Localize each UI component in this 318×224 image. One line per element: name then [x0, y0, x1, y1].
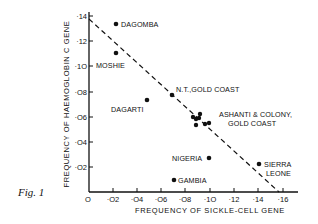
label-nt-gold-coast: N.T.,GOLD COAST [176, 85, 240, 94]
x-tick-label: ·14 [253, 195, 264, 204]
label-moshie: MOSHIE [96, 61, 125, 70]
point-ashanti [207, 121, 211, 125]
label-sierra-line1: SIERRA [264, 160, 291, 169]
y-tick-label: ·O6 [74, 113, 87, 122]
point-gambia [172, 178, 177, 183]
x-tick-label: ·O8 [179, 195, 192, 204]
y-tick-labels: ·O2 ·O4 ·O6 ·O8 ·1O ·12 ·14 [74, 12, 87, 172]
y-tick-label: ·1O [74, 62, 87, 71]
x-tick-label: O [85, 195, 91, 204]
y-axis-title: FREQUENCY OF HAEMOGLOBIN C GENE [62, 21, 71, 188]
point-sierra-leone [257, 162, 262, 167]
label-ashanti-line1: ASHANTI & COLONY, [219, 110, 292, 119]
point-dagomba [114, 22, 119, 27]
x-tick-label: ·12 [229, 195, 240, 204]
label-sierra-line2: LEONE [266, 169, 291, 178]
label-dagarti: DAGARTI [111, 105, 144, 114]
label-ashanti-line2: GOLD COAST [228, 119, 277, 128]
x-tick-label: ·1O [204, 195, 217, 204]
label-dagomba: DAGOMBA [121, 20, 159, 29]
point-ashanti [197, 116, 201, 120]
point-ashanti [194, 123, 198, 127]
label-nigeria: NIGERIA [172, 154, 202, 163]
label-gambia: GAMBIA [178, 176, 207, 185]
y-tick-label: ·O4 [74, 138, 87, 147]
x-tick-label: ·O4 [131, 195, 144, 204]
y-tick-label: ·12 [76, 37, 87, 46]
x-tick-label: ·16 [278, 195, 289, 204]
x-tick-labels: O ·O2 ·O4 ·O6 ·O8 ·1O ·12 ·14 ·16 [85, 195, 288, 204]
y-tick-label: ·O2 [74, 163, 87, 172]
x-tick-label: ·O2 [107, 195, 120, 204]
point-dagarti [145, 98, 150, 103]
point-ashanti [203, 122, 207, 126]
point-moshie [114, 51, 119, 56]
scatter-chart: ·O2 ·O4 ·O6 ·O8 ·1O ·12 ·14 O ·O2 ·O4 ·O… [0, 0, 318, 224]
point-nigeria [207, 156, 212, 161]
y-tick-label: ·O8 [74, 88, 87, 97]
point-nt-gold-coast [170, 93, 175, 98]
point-ashanti [198, 112, 202, 116]
x-tick-label: ·O6 [155, 195, 168, 204]
figure-caption: Fig. 1 [18, 186, 44, 198]
x-axis-title: FREQUENCY OF SICKLE-CELL GENE [135, 206, 285, 215]
y-tick-label: ·14 [76, 12, 87, 21]
